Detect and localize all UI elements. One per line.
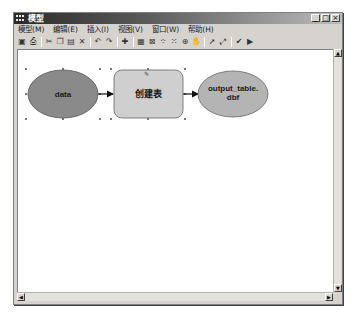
menu-insert[interactable]: 插入(I) (87, 24, 109, 35)
menu-view[interactable]: 视图(V) (118, 24, 143, 35)
minimize-button[interactable]: _ (311, 14, 320, 22)
delete-icon[interactable]: ✕ (77, 37, 87, 47)
scroll-right-arrow-icon[interactable]: ▶ (325, 293, 333, 301)
run-icon[interactable]: ▶ (245, 37, 255, 47)
toolbar-separator (41, 37, 42, 47)
validate-icon[interactable]: ✔ (234, 37, 244, 47)
model-canvas[interactable]: data 创建表 ✎ output_table. dbf (17, 49, 333, 292)
toolbar-separator (231, 37, 232, 47)
menu-window[interactable]: 窗口(W) (152, 24, 179, 35)
scroll-down-arrow-icon[interactable]: ▼ (334, 284, 342, 292)
zoom-out-fixed-icon[interactable]: ⁙ (169, 37, 179, 47)
toolbar-separator (133, 37, 134, 47)
zoom-icon[interactable]: ⊕ (180, 37, 190, 47)
connect-icon[interactable]: ⤢ (218, 37, 228, 47)
menu-model[interactable]: 模型(M) (18, 24, 44, 35)
node-output-label-line2: dbf (227, 93, 240, 102)
add-data-icon[interactable]: ✚ (120, 37, 130, 47)
toolbar-separator (204, 37, 205, 47)
save-icon[interactable]: ▣ (17, 37, 27, 47)
auto-layout-icon[interactable]: ▦ (136, 37, 146, 47)
paste-icon[interactable]: ▤ (66, 37, 76, 47)
model-app-icon (16, 15, 25, 22)
horizontal-scrollbar[interactable]: ◀ ▶ (17, 292, 333, 301)
vertical-scrollbar[interactable]: ▲ ▼ (333, 49, 341, 292)
menu-bar: 模型(M) 编辑(E) 插入(I) 视图(V) 窗口(W) 帮助(H) (14, 24, 342, 35)
print-icon[interactable]: ⎙ (28, 37, 38, 47)
node-create-table-label: 创建表 (134, 88, 163, 99)
maximize-button[interactable]: □ (321, 14, 330, 22)
toolbar-separator (90, 37, 91, 47)
model-window: 模型 _ □ × 模型(M) 编辑(E) 插入(I) 视图(V) 窗口(W) 帮… (13, 12, 343, 305)
cut-icon[interactable]: ✂ (44, 37, 54, 47)
pan-icon[interactable]: ✋ (191, 37, 201, 47)
menu-edit[interactable]: 编辑(E) (53, 24, 78, 35)
zoom-in-fixed-icon[interactable]: ⁘ (158, 37, 168, 47)
close-button[interactable]: × (331, 14, 340, 22)
scroll-left-arrow-icon[interactable]: ◀ (17, 293, 25, 301)
scrollbar-corner (333, 292, 341, 301)
node-create-table[interactable]: 创建表 ✎ (114, 70, 183, 118)
window-controls: _ □ × (311, 14, 340, 22)
toolbar: ▣ ⎙ ✂ ❐ ▤ ✕ ↶ ↷ ✚ ▦ ⊠ ⁘ ⁙ ⊕ ✋ ➚ ⤢ ✔ ▶ (14, 35, 342, 48)
toolbar-separator (117, 37, 118, 47)
window-title: 模型 (28, 13, 44, 24)
node-output-table[interactable]: output_table. dbf (198, 71, 268, 117)
select-icon[interactable]: ➚ (207, 37, 217, 47)
scroll-up-arrow-icon[interactable]: ▲ (334, 49, 342, 57)
model-diagram: data 创建表 ✎ output_table. dbf (18, 50, 333, 292)
title-bar[interactable]: 模型 _ □ × (14, 13, 342, 24)
menu-help[interactable]: 帮助(H) (188, 24, 214, 35)
redo-icon[interactable]: ↷ (104, 37, 114, 47)
full-extent-icon[interactable]: ⊠ (147, 37, 157, 47)
edit-pencil-icon: ✎ (144, 70, 149, 77)
copy-icon[interactable]: ❐ (55, 37, 65, 47)
node-data[interactable]: data (28, 70, 98, 118)
node-data-label: data (55, 90, 72, 99)
node-output-label-line1: output_table. (208, 84, 258, 93)
undo-icon[interactable]: ↶ (93, 37, 103, 47)
